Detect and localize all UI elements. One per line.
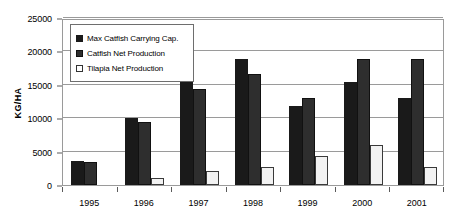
y-axis-title: KG/HA bbox=[13, 63, 23, 143]
bar-1997-series-1 bbox=[193, 89, 206, 185]
y-axis: 0500010000150002000025000 bbox=[0, 0, 62, 218]
bar-1998-series-0 bbox=[235, 59, 248, 185]
chart-legend: Max Catfish Carrying Cap.Catfish Net Pro… bbox=[70, 24, 194, 82]
x-tick-mark bbox=[280, 187, 281, 192]
x-tick-mark bbox=[62, 187, 63, 192]
x-tick-label: 1998 bbox=[243, 198, 263, 208]
legend-swatch-icon bbox=[76, 65, 83, 72]
x-tick-label: 1997 bbox=[188, 198, 208, 208]
y-tick-label: 20000 bbox=[27, 47, 52, 57]
y-tick-label: 5000 bbox=[32, 148, 52, 158]
x-tick-label: 1995 bbox=[79, 198, 99, 208]
x-tick-label: 2000 bbox=[352, 198, 372, 208]
y-tick-label: 10000 bbox=[27, 114, 52, 124]
bar-2000-series-0 bbox=[344, 82, 357, 185]
bar-2001-series-1 bbox=[411, 59, 424, 185]
bar-chart: 0500010000150002000025000 KG/HA 19951996… bbox=[0, 0, 460, 218]
bar-1999-series-2 bbox=[315, 156, 328, 185]
bar-1997-series-2 bbox=[206, 171, 219, 185]
legend-item-0[interactable]: Max Catfish Carrying Cap. bbox=[76, 31, 188, 45]
legend-item-2[interactable]: Tilapia Net Production bbox=[76, 61, 188, 75]
y-tick-label: 0 bbox=[47, 181, 52, 191]
x-tick-mark bbox=[443, 187, 444, 192]
legend-label: Catfish Net Production bbox=[87, 49, 165, 58]
bar-2000-series-2 bbox=[370, 145, 383, 185]
y-tick-label: 15000 bbox=[27, 81, 52, 91]
bar-2001-series-0 bbox=[398, 98, 411, 186]
x-tick-mark bbox=[117, 187, 118, 192]
legend-label: Tilapia Net Production bbox=[87, 64, 163, 73]
bar-1998-series-1 bbox=[248, 74, 261, 185]
bar-1999-series-1 bbox=[302, 98, 315, 185]
legend-item-1[interactable]: Catfish Net Production bbox=[76, 46, 188, 60]
bar-1999-series-0 bbox=[289, 106, 302, 185]
x-tick-mark bbox=[171, 187, 172, 192]
bar-1996-series-0 bbox=[125, 118, 138, 185]
bar-1995-series-1 bbox=[84, 162, 97, 185]
bar-1997-series-0 bbox=[180, 80, 193, 185]
x-tick-label: 1999 bbox=[298, 198, 318, 208]
y-tick-label: 25000 bbox=[27, 14, 52, 24]
bar-2001-series-2 bbox=[424, 167, 437, 185]
bar-2000-series-1 bbox=[357, 59, 370, 185]
bar-1996-series-2 bbox=[151, 178, 164, 185]
legend-swatch-icon bbox=[76, 35, 83, 42]
x-tick-mark bbox=[389, 187, 390, 192]
x-tick-mark bbox=[226, 187, 227, 192]
gridline bbox=[63, 17, 443, 18]
bar-1996-series-1 bbox=[138, 122, 151, 185]
legend-swatch-icon bbox=[76, 50, 83, 57]
x-axis: 1995199619971998199920002001 bbox=[62, 187, 444, 217]
bar-1998-series-2 bbox=[261, 167, 274, 185]
x-tick-label: 2001 bbox=[407, 198, 427, 208]
x-tick-mark bbox=[335, 187, 336, 192]
x-tick-label: 1996 bbox=[134, 198, 154, 208]
legend-label: Max Catfish Carrying Cap. bbox=[87, 34, 178, 43]
bar-1995-series-0 bbox=[71, 161, 84, 185]
